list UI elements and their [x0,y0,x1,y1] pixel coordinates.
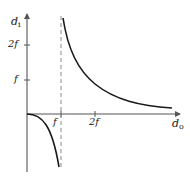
x-axis-label: do [172,118,184,131]
x-axis-label-sub: o [179,122,184,131]
x-axis-label-main: d [172,117,179,130]
y-tick-label-f: f [14,74,18,84]
real-image-curve [63,18,172,108]
y-axis-label-main: d [11,15,18,28]
x-tick-label-f: f [53,117,57,127]
y-tick-label-2f: 2f [8,39,18,49]
y-axis-label: di [11,16,21,29]
x-tick-label-2f: 2f [89,117,99,127]
y-axis-label-sub: i [18,20,21,29]
plot-canvas [0,0,190,182]
lens-equation-diagram: di 2f f f 2f do [0,0,190,182]
